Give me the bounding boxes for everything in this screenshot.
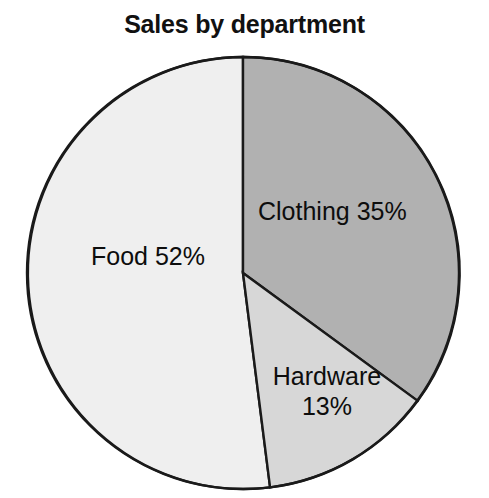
slice-label-clothing: Clothing 35% — [258, 197, 438, 227]
pie-chart-figure: Sales by department Clothing 35% Food 52… — [0, 0, 489, 498]
slice-label-hardware-name: Hardware — [252, 362, 402, 392]
slice-label-hardware: Hardware 13% — [252, 362, 402, 421]
pie-slice-food[interactable] — [28, 57, 270, 489]
slice-label-hardware-value: 13% — [252, 392, 402, 422]
slice-label-food: Food 52% — [48, 242, 248, 272]
